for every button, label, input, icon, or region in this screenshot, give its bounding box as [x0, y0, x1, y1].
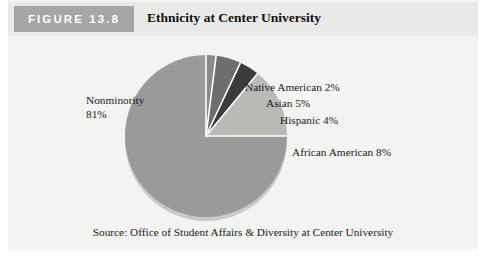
pie-label-asian: Asian 5%	[266, 97, 310, 111]
pie-chart-area: Nonminority 81% Native American 2% Asian…	[8, 36, 478, 250]
pie-label-nonminority-percent: 81%	[86, 108, 144, 122]
figure-title: Ethnicity at Center University	[147, 10, 321, 26]
figure-source-note: Source: Office of Student Affairs & Dive…	[0, 226, 486, 238]
pie-label-african-american: African American 8%	[292, 146, 391, 160]
pie-label-hispanic: Hispanic 4%	[280, 114, 338, 128]
pie-chart-svg	[8, 36, 478, 250]
figure-number-badge: FIGURE 13.8	[14, 6, 134, 32]
pie-label-nonminority-name: Nonminority	[86, 94, 144, 108]
pie-label-native-american: Native American 2%	[245, 81, 340, 95]
pie-label-nonminority: Nonminority 81%	[86, 94, 144, 122]
figure-container: FIGURE 13.8 Ethnicity at Center Universi…	[0, 0, 486, 260]
